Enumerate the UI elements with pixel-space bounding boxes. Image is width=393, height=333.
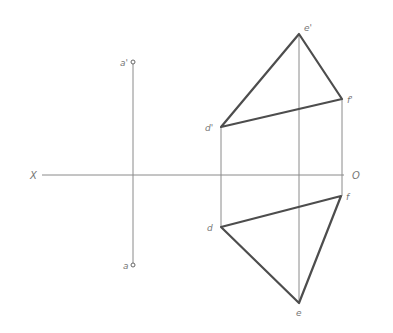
label-f-prime: f' <box>347 95 353 105</box>
label-a: a <box>123 261 129 271</box>
label-f: f <box>346 192 351 202</box>
label-d: d <box>207 223 213 233</box>
projection-diagram: X O a' a d' e' f' d e f <box>0 0 393 333</box>
label-e: e <box>296 308 302 318</box>
point-a-top-marker <box>131 263 135 267</box>
label-a-prime: a' <box>120 58 128 68</box>
label-e-prime: e' <box>304 23 312 33</box>
diagram-svg: X O a' a d' e' f' d e f <box>0 0 393 333</box>
point-a-front-marker <box>131 60 135 64</box>
axis-label-x: X <box>29 170 38 181</box>
triangle-front-view <box>221 34 342 127</box>
axis-label-o: O <box>352 170 360 181</box>
label-d-prime: d' <box>205 123 213 133</box>
triangle-top-view <box>221 196 341 303</box>
